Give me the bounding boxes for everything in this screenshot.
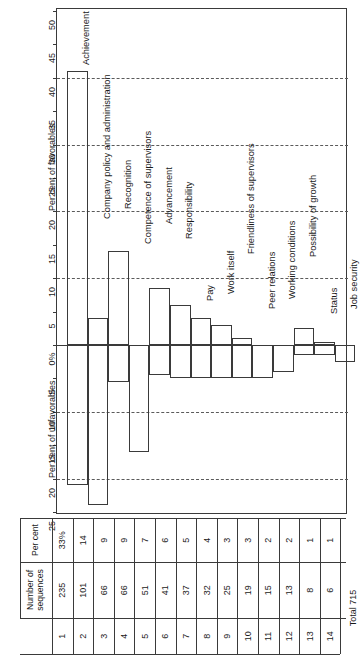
table-cell-percent: 3 — [217, 518, 238, 562]
table-cell-percent: 1 — [320, 518, 341, 562]
favorable-45-tick-label: 45 — [47, 43, 57, 73]
bar-unfavorable — [149, 345, 170, 375]
table-cell-count: 101 — [73, 562, 94, 618]
table-cell-count: 15 — [258, 562, 279, 618]
bar-favorable — [108, 251, 129, 345]
table-cell-index: 1 — [52, 618, 73, 654]
table-cell-count: 6 — [320, 562, 341, 618]
favorable-40-tick-label: 40 — [47, 77, 57, 107]
table-cell-percent: 1 — [299, 518, 320, 562]
unfavorable-20-tick-label: 20 — [47, 478, 57, 508]
table-cell-percent: 3 — [237, 518, 258, 562]
bar-unfavorable — [211, 345, 232, 378]
factor-label: Peer relations — [267, 252, 277, 309]
bar-unfavorable — [67, 345, 88, 485]
table-cell-percent: 9 — [114, 518, 135, 562]
table-header-percent: Per cent — [20, 518, 52, 562]
bar-favorable — [149, 288, 170, 345]
bar-unfavorable — [314, 345, 335, 355]
bar-unfavorable — [273, 345, 294, 372]
table-cell-count: 51 — [134, 562, 155, 618]
bar-unfavorable — [170, 345, 191, 378]
table-cell-count: 13 — [279, 562, 300, 618]
table-cell-index: 9 — [217, 618, 238, 654]
bar-unfavorable — [232, 345, 253, 378]
table-cell-percent: 6 — [155, 518, 176, 562]
table-cell-percent: 33% — [52, 518, 73, 562]
table-cell-count: 66 — [93, 562, 114, 618]
table-cell-index: 2 — [73, 618, 94, 654]
favorable-50-tick-label: 50 — [47, 10, 57, 40]
favorable-axis-title: Per cent of favorables — [47, 167, 57, 211]
favorable-10-tick-label: 10 — [47, 277, 57, 307]
table-cell-index: 8 — [196, 618, 217, 654]
table-cell-count: 66 — [114, 562, 135, 618]
favorable-20-tick-label: 20 — [47, 210, 57, 240]
bar-favorable — [294, 328, 315, 345]
factor-label: Recognition — [123, 160, 133, 209]
table-cell-index: 14 — [320, 618, 341, 654]
table-cell-percent: 2 — [258, 518, 279, 562]
gridline-favorable-10 — [57, 278, 348, 279]
sequence-table: Per centNumber of sequences33%2351141012… — [0, 518, 355, 654]
bar-unfavorable — [252, 345, 273, 378]
gridline-favorable-30 — [57, 145, 348, 146]
table-cell-index: 10 — [237, 618, 258, 654]
favorable-5-tick-label: 5 — [47, 311, 57, 341]
bar-favorable — [191, 318, 212, 345]
factor-label: Friendliness of supervisors — [246, 143, 256, 254]
factor-label: Possibility of growth — [308, 175, 318, 257]
table-cell-count: 32 — [196, 562, 217, 618]
bar-favorable — [232, 338, 253, 345]
gridline-favorable-20 — [57, 211, 348, 212]
factor-label: Achievement — [81, 11, 91, 65]
factor-label: Job security — [349, 259, 359, 309]
table-cell-percent: 4 — [196, 518, 217, 562]
bar-favorable — [170, 305, 191, 345]
bar-unfavorable — [294, 345, 315, 355]
factor-label: Status — [329, 288, 339, 314]
unfavorable-axis-title: Per cent of unfavorables — [47, 434, 57, 478]
bar-unfavorable — [88, 345, 109, 505]
table-cell-percent: 9 — [93, 518, 114, 562]
table-cell-count: 37 — [176, 562, 197, 618]
table-cell-index: 6 — [155, 618, 176, 654]
table-cell-index: 4 — [114, 618, 135, 654]
table-cell-count: 25 — [217, 562, 238, 618]
factor-label: Advancement — [164, 167, 174, 224]
table-total-label: Total 715 — [340, 562, 364, 654]
bar-unfavorable — [335, 345, 356, 362]
favorable-15-tick-label: 15 — [47, 244, 57, 274]
bar-favorable — [88, 318, 109, 345]
zero-tick-label: 0% — [47, 344, 57, 374]
table-cell-percent: 14 — [73, 518, 94, 562]
table-cell-count: 235 — [52, 562, 73, 618]
table-cell-percent: 5 — [176, 518, 197, 562]
bar-unfavorable — [191, 345, 212, 378]
factor-label: Responsibility — [184, 182, 194, 239]
factor-label: Pay — [205, 285, 215, 301]
bar-favorable — [67, 71, 88, 345]
gridline-favorable-40 — [57, 78, 348, 79]
factor-label: Company policy and administration — [102, 74, 112, 219]
plot-area: AchievementCompany policy and administra… — [56, 8, 347, 514]
table-cell-count: 41 — [155, 562, 176, 618]
factor-label: Work itself — [226, 251, 236, 294]
table-cell-index: 5 — [134, 618, 155, 654]
bar-unfavorable — [108, 345, 129, 382]
table-cell-index: 12 — [279, 618, 300, 654]
table-cell-index: 3 — [93, 618, 114, 654]
table-cell-count: 8 — [299, 562, 320, 618]
table-cell-percent: 2 — [279, 518, 300, 562]
factor-label: Competence of supervisors — [143, 131, 153, 244]
bar-unfavorable — [129, 345, 150, 452]
table-cell-index: 13 — [299, 618, 320, 654]
factor-label: Working conditions — [287, 221, 297, 299]
bar-favorable — [211, 325, 232, 345]
table-cell-percent: 7 — [134, 518, 155, 562]
table-cell-index: 11 — [258, 618, 279, 654]
table-header-count: Number of sequences — [20, 562, 52, 618]
table-cell-index: 7 — [176, 618, 197, 654]
table-cell-count: 19 — [237, 562, 258, 618]
